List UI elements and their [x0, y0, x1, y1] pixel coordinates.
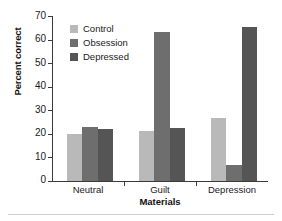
y-tick-mark — [48, 40, 52, 41]
x-axis-line — [52, 181, 268, 182]
bar-chart-figure: Percent correct 010203040506070 NeutralG… — [0, 0, 282, 221]
legend-item-obsession: Obsession — [70, 36, 129, 49]
footer-divider — [8, 214, 274, 215]
legend-label-obsession: Obsession — [83, 37, 128, 48]
bar-obsession-guilt — [154, 32, 170, 180]
y-tick-label: 20 — [35, 127, 46, 139]
bar-obsession-neutral — [82, 127, 98, 181]
legend-label-control: Control — [83, 23, 114, 34]
y-tick-label: 10 — [35, 151, 46, 163]
x-tick-label: Depression — [196, 184, 268, 195]
y-tick-mark — [48, 63, 52, 64]
legend-swatch-control-icon — [70, 25, 78, 33]
legend-swatch-obsession-icon — [70, 39, 78, 47]
bar-control-neutral — [67, 134, 83, 181]
y-tick-label: 0 — [40, 174, 46, 186]
y-tick-label: 60 — [35, 33, 46, 45]
bar-depressed-depression — [242, 27, 258, 181]
x-tick-label: Neutral — [52, 184, 124, 195]
legend-item-control: Control — [70, 22, 129, 35]
y-tick-label: 50 — [35, 57, 46, 69]
y-axis-line — [52, 16, 53, 182]
bar-group — [139, 17, 186, 181]
legend-item-depressed: Depressed — [70, 50, 129, 63]
y-tick-mark — [48, 110, 52, 111]
x-axis-title: Materials — [52, 196, 268, 207]
y-tick-label: 70 — [35, 10, 46, 22]
chart-legend: Control Obsession Depressed — [70, 22, 129, 64]
bar-depressed-neutral — [98, 129, 114, 181]
y-tick-mark — [48, 181, 52, 182]
y-axis-title: Percent correct — [12, 7, 23, 117]
bar-control-guilt — [139, 131, 155, 180]
legend-label-depressed: Depressed — [83, 51, 129, 62]
y-tick-mark — [48, 134, 52, 135]
bar-control-depression — [211, 118, 227, 180]
y-tick-label: 30 — [35, 104, 46, 116]
y-tick-label: 40 — [35, 80, 46, 92]
bar-obsession-depression — [226, 165, 242, 180]
legend-swatch-depressed-icon — [70, 53, 78, 61]
y-tick-mark — [48, 87, 52, 88]
bar-depressed-guilt — [170, 128, 186, 181]
x-tick-label: Guilt — [124, 184, 196, 195]
bar-group — [211, 17, 258, 181]
y-tick-mark — [48, 16, 52, 17]
y-tick-mark — [48, 157, 52, 158]
